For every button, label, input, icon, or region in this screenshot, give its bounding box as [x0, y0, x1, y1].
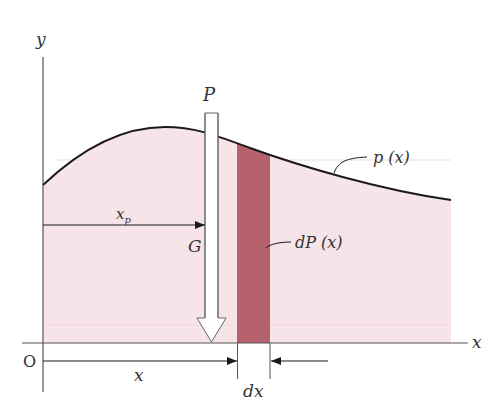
y-axis-label: y — [35, 29, 46, 49]
origin-label: O — [23, 352, 36, 371]
load-curve-label: p (x) — [373, 148, 410, 167]
element-force-label: dP (x) — [295, 233, 343, 252]
x-axis-label: x — [472, 332, 482, 352]
resultant-label-P: P — [202, 84, 216, 105]
distributed-load-diagram: y x O P G xp p (x) dP (x) x dx — [0, 0, 500, 412]
x-distance-label: x — [134, 365, 144, 385]
element-strip-dP — [237, 143, 270, 343]
dx-label: dx — [243, 381, 264, 401]
centroid-label-G: G — [188, 236, 202, 256]
p-curve-leader — [334, 157, 367, 173]
